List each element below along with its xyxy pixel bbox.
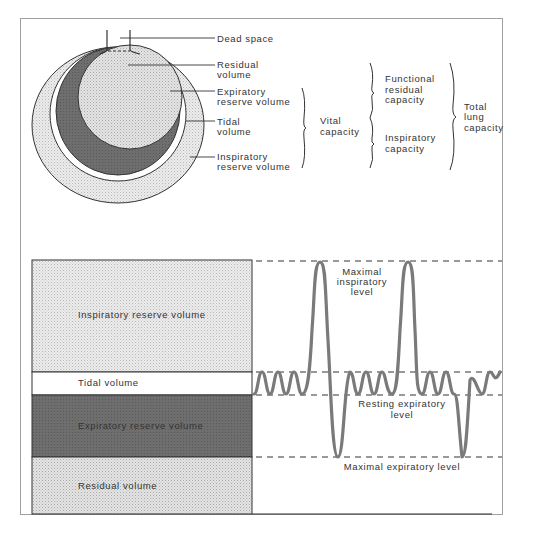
label-frc-3: capacity (385, 94, 425, 105)
level-lines (256, 261, 502, 457)
bar-label-residual: Residual volume (78, 480, 157, 491)
label-tidal-2: volume (217, 126, 251, 137)
label-vital-capacity-2: capacity (320, 126, 360, 137)
label-resting-exp-1: Resting expiratory (358, 398, 445, 409)
brace-total-lung-capacity (450, 63, 456, 170)
bar-label-irv: Inspiratory reserve volume (78, 309, 206, 320)
label-resting-exp-2: level (391, 409, 414, 420)
lung-volumes-diagram: Dead space Residual volume Expiratory re… (0, 0, 535, 542)
residual-circle (78, 45, 182, 149)
label-max-insp-3: level (351, 286, 374, 297)
brace-inspiratory-capacity (370, 118, 374, 168)
label-tlc-3: capacity (464, 122, 504, 133)
label-frc-1: Functional (385, 73, 435, 84)
label-irv-2: reserve volume (217, 161, 290, 172)
label-ic-2: capacity (385, 143, 425, 154)
bar-tidal (32, 372, 252, 395)
brace-vital-capacity (302, 88, 306, 168)
label-dead-space: Dead space (217, 33, 274, 44)
label-erv-2: reserve volume (217, 96, 290, 107)
label-residual-volume-2: volume (217, 69, 251, 80)
lung-circle-diagram (32, 30, 204, 203)
bar-label-erv: Expiratory reserve volume (78, 420, 203, 431)
label-tlc-2: lung (464, 111, 484, 122)
label-max-exp: Maximal expiratory level (344, 461, 460, 472)
label-ic-1: Inspiratory (385, 132, 436, 143)
spirometer-waveform (254, 262, 500, 457)
brace-functional-residual-capacity (370, 63, 374, 118)
bar-label-tidal: Tidal volume (78, 377, 139, 388)
label-vital-capacity-1: Vital (320, 115, 341, 126)
volume-bar (32, 260, 252, 514)
